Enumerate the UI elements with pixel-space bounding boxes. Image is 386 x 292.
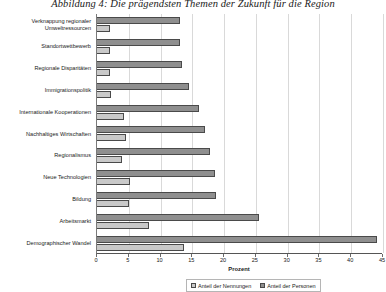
x-tick-label: 45 [379, 257, 385, 263]
bar-personen [97, 192, 216, 199]
legend-item: Anteil der Nennungen [191, 283, 251, 289]
x-tick-label: 0 [94, 257, 97, 263]
y-axis-label: Regionalismus [0, 152, 91, 159]
x-axis-title: Prozent [96, 266, 382, 272]
y-axis-label: Immigrationspolitik [0, 87, 91, 94]
chart-legend: Anteil der NennungenAnteil der Personen [186, 279, 321, 292]
bar-nennungen [97, 178, 130, 185]
y-axis-label: Bildung [0, 196, 91, 203]
legend-swatch [191, 283, 196, 288]
legend-item: Anteil der Personen [260, 283, 315, 289]
bar-nennungen [97, 113, 124, 120]
y-axis-label: Neue Technologien [0, 174, 91, 181]
bar-group [97, 36, 382, 58]
bar-nennungen [97, 156, 122, 163]
y-axis-label: Standortwettbewerb [0, 43, 91, 50]
bar-personen [97, 39, 180, 46]
y-axis-label: Demographischer Wandel [0, 240, 91, 247]
plot-area [96, 14, 382, 254]
bar-group [97, 58, 382, 80]
gridline [383, 14, 384, 253]
y-axis-label: Regionale Disparitäten [0, 65, 91, 72]
legend-swatch [260, 283, 265, 288]
bar-nennungen [97, 200, 129, 207]
x-tick-label: 35 [315, 257, 321, 263]
x-tick-label: 25 [252, 257, 258, 263]
bar-personen [97, 170, 215, 177]
x-axis-ticks: 051015202530354045 [96, 254, 382, 266]
bar-personen [97, 126, 205, 133]
bar-personen [97, 61, 182, 68]
bar-personen [97, 148, 210, 155]
x-tick-label: 10 [156, 257, 162, 263]
bar-personen [97, 83, 189, 90]
bar-nennungen [97, 47, 110, 54]
x-tick-label: 5 [126, 257, 129, 263]
bar-nennungen [97, 134, 126, 141]
bar-group [97, 167, 382, 189]
bar-nennungen [97, 222, 149, 229]
bar-personen [97, 105, 199, 112]
bar-nennungen [97, 69, 110, 76]
bar-group [97, 79, 382, 101]
bar-nennungen [97, 25, 110, 32]
bar-personen [97, 17, 180, 24]
bar-group [97, 232, 382, 254]
bar-group [97, 14, 382, 36]
bar-rows [97, 14, 382, 253]
y-axis-label: Arbeitsmarkt [0, 218, 91, 225]
y-axis-label: Internationale Kooperationen [0, 109, 91, 116]
legend-label: Anteil der Nennungen [198, 283, 251, 289]
y-axis-label: Nachhaltiges Wirtschaften [0, 131, 91, 138]
bar-nennungen [97, 91, 111, 98]
y-axis-label: Verknappung regionaler Umweltressourcen [0, 18, 91, 32]
bar-personen [97, 236, 377, 243]
legend-label: Anteil der Personen [267, 283, 315, 289]
x-tick-label: 20 [220, 257, 226, 263]
bar-group [97, 189, 382, 211]
bar-personen [97, 214, 259, 221]
y-axis-labels: Verknappung regionaler UmweltressourcenS… [0, 14, 94, 254]
bar-group [97, 123, 382, 145]
x-tick-label: 15 [188, 257, 194, 263]
bar-group [97, 210, 382, 232]
bar-nennungen [97, 244, 184, 251]
x-tick-label: 40 [347, 257, 353, 263]
figure-title: Abbildung 4: Die prägendsten Themen der … [0, 0, 386, 9]
x-tick-label: 30 [284, 257, 290, 263]
bar-group [97, 145, 382, 167]
bar-group [97, 101, 382, 123]
